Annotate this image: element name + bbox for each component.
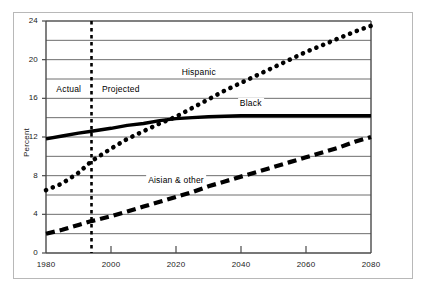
series-label-1: Black [238,98,264,108]
chart-plot-svg [0,0,428,293]
actual-region-label: Actual [54,84,83,94]
x-tick-label-2040: 2040 [221,260,261,269]
y-tick-label-4: 4 [20,209,38,218]
y-tick-label-20: 20 [20,55,38,64]
y-tick-label-12: 12 [20,132,38,141]
x-tick-label-2080: 2080 [351,260,391,269]
data-series-group [46,26,371,234]
series-label-0: Hispanic [180,67,218,77]
x-tick-label-2020: 2020 [156,260,196,269]
x-tick-marks-group [111,246,306,253]
projected-region-label: Projected [100,84,142,94]
chart-figure: Percent 04812162024 19802000202020402060… [0,0,428,293]
series-label-2: Aisian & other [146,175,206,185]
x-tick-label-2060: 2060 [286,260,326,269]
gridlines-group [46,21,371,234]
series-line-0 [46,26,371,190]
x-tick-label-1980: 1980 [26,260,66,269]
series-line-1 [46,116,371,139]
x-tick-label-2000: 2000 [91,260,131,269]
y-tick-label-16: 16 [20,93,38,102]
y-tick-label-0: 0 [20,248,38,257]
y-tick-label-24: 24 [20,16,38,25]
y-tick-label-8: 8 [20,171,38,180]
series-line-2 [46,137,371,234]
